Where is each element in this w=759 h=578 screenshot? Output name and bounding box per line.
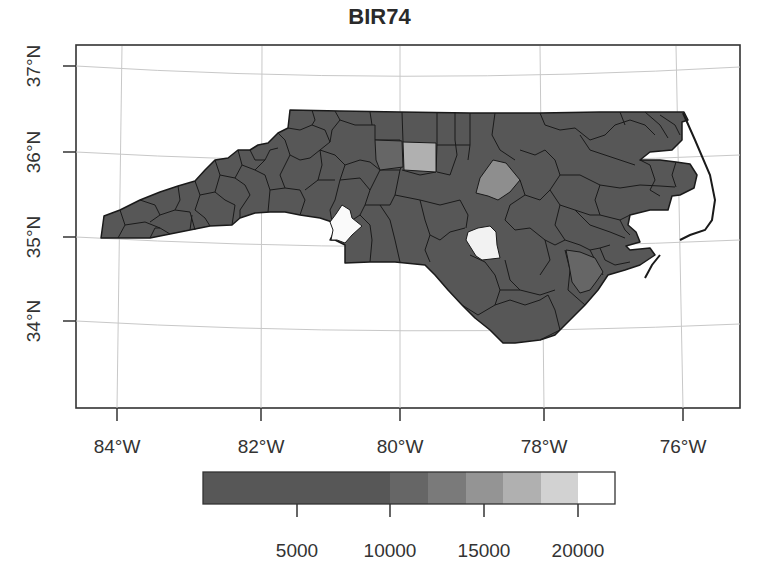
colorbar-label-20000: 20000 [538, 540, 618, 562]
y-tick-label-37n: 37°N [23, 36, 45, 96]
x-tick-label-82w: 82°W [221, 436, 301, 458]
x-tick-label-76w: 76°W [643, 436, 723, 458]
y-tick-label-35n: 35°N [23, 207, 45, 267]
y-tick-label-34n: 34°N [23, 291, 45, 351]
colorbar-label-5000: 5000 [257, 540, 337, 562]
x-ticks [117, 408, 683, 421]
colorbar [203, 472, 615, 517]
y-tick-label-36n: 36°N [23, 122, 45, 182]
x-tick-label-84w: 84°W [77, 436, 157, 458]
colorbar-label-15000: 15000 [444, 540, 524, 562]
colorbar-label-10000: 10000 [350, 540, 430, 562]
choropleth-map [0, 0, 759, 578]
county-forsyth [375, 140, 403, 170]
county-guilford [403, 142, 436, 172]
y-ticks [63, 66, 76, 321]
x-tick-label-80w: 80°W [360, 436, 440, 458]
x-tick-label-78w: 78°W [504, 436, 584, 458]
